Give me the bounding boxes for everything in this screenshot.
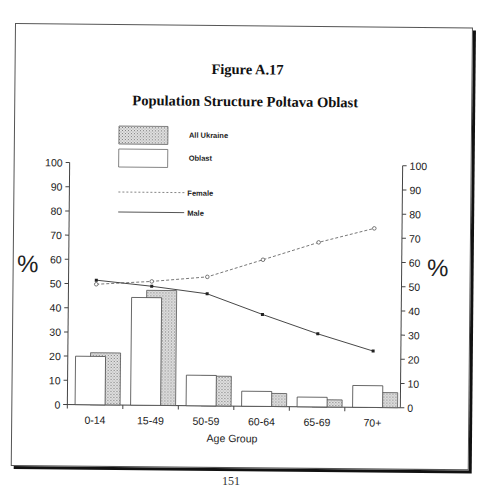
y-tick-label-left: 80 <box>50 205 62 217</box>
marker-male <box>261 313 264 316</box>
legend-swatch-female <box>118 192 184 193</box>
figure-label: Figure A.17 <box>211 61 283 78</box>
y-tick-label-right: 80 <box>409 208 421 220</box>
legend-swatch-all-ukraine <box>119 126 168 144</box>
legend-label: Oblast <box>189 154 213 163</box>
x-tick-label: 65-69 <box>303 416 330 428</box>
marker-female <box>317 241 321 245</box>
y-tick-label-right: 60 <box>409 257 421 269</box>
chart-title: Population Structure Poltava Oblast <box>132 92 358 110</box>
bars <box>75 290 399 408</box>
x-tick-label: 15-49 <box>137 414 164 426</box>
y-tick-label-left: 60 <box>50 253 62 265</box>
x-axis-title: Age Group <box>207 432 258 444</box>
y-tick-label-left: 40 <box>50 302 62 314</box>
y-tick-label-right: 70 <box>409 232 421 244</box>
line-female <box>96 226 374 287</box>
bar-oblast <box>131 297 162 405</box>
marker-male <box>206 292 209 295</box>
x-tick-label: 0-14 <box>84 414 105 426</box>
y-tick-label-right: 30 <box>408 329 420 341</box>
y-tick-label-right: 10 <box>407 378 419 390</box>
bar-oblast <box>297 397 327 407</box>
marker-male <box>372 350 375 353</box>
marker-female <box>206 275 210 279</box>
y-tick-label-left: 50 <box>50 277 62 289</box>
legend-label: Female <box>187 189 213 198</box>
marker-female <box>372 227 376 231</box>
legend-label: Male <box>187 209 204 218</box>
marker-male <box>150 285 153 288</box>
y-tick-label-left: 20 <box>49 350 61 362</box>
marker-female <box>261 258 265 262</box>
x-tick-label: 60-64 <box>248 415 275 427</box>
legend-swatch-oblast <box>119 149 168 167</box>
marker-male <box>95 279 98 282</box>
legend-swatch-male <box>118 212 184 213</box>
y-tick-label-left: 0 <box>54 398 60 410</box>
bar-oblast <box>242 391 272 406</box>
y-tick-label-left: 70 <box>50 229 62 241</box>
bar-oblast <box>186 375 216 406</box>
y-tick-label-right: 0 <box>407 402 413 414</box>
y-tick-label-left: 100 <box>45 156 63 168</box>
y-tick-label-right: 90 <box>409 184 421 196</box>
y-tick-label-left: 90 <box>51 181 63 193</box>
y-axis-label-right: % <box>427 254 449 281</box>
bar-oblast <box>75 356 105 405</box>
page-number: 151 <box>222 474 240 489</box>
bar-oblast <box>353 385 383 407</box>
y-tick-label-left: 30 <box>49 326 61 338</box>
marker-female <box>150 280 154 284</box>
marker-male <box>316 332 319 335</box>
y-tick-label-right: 40 <box>408 305 420 317</box>
x-tick-label: 70+ <box>363 416 381 428</box>
x-tick-label: 50-59 <box>192 415 219 427</box>
legend-label: All Ukraine <box>189 131 228 140</box>
marker-female <box>94 282 98 286</box>
y-tick-label-left: 10 <box>49 374 61 386</box>
y-tick-label-right: 50 <box>408 281 420 293</box>
y-axis-label-left: % <box>17 250 39 277</box>
legend: All UkraineOblastFemaleMale <box>118 126 228 218</box>
y-tick-label-right: 20 <box>408 353 420 365</box>
y-tick-label-right: 100 <box>410 160 428 172</box>
